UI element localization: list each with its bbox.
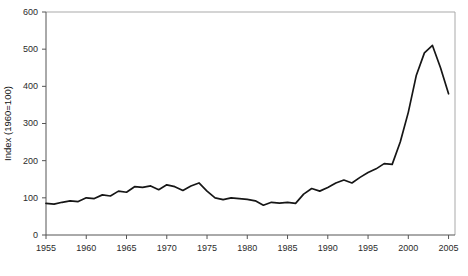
y-tick-label: 0: [33, 230, 38, 240]
x-tick-label: 1960: [76, 243, 96, 253]
x-axis-ticks: 1955196019651970197519801985199019952000…: [36, 235, 459, 253]
x-tick-label: 2000: [398, 243, 418, 253]
x-tick-label: 1970: [157, 243, 177, 253]
y-tick-label: 100: [23, 193, 38, 203]
x-tick-label: 1985: [278, 243, 298, 253]
data-series-group: [46, 45, 449, 205]
chart-container: 0100200300400500600 19551960196519701975…: [0, 0, 468, 276]
y-tick-label: 300: [23, 118, 38, 128]
x-tick-label: 1980: [237, 243, 257, 253]
y-axis-title: Index (1960=100): [2, 86, 13, 161]
y-tick-label: 600: [23, 7, 38, 17]
series-line: [46, 45, 449, 205]
x-tick-label: 1965: [116, 243, 136, 253]
y-axis-ticks: 0100200300400500600: [23, 7, 46, 240]
y-tick-label: 500: [23, 44, 38, 54]
y-tick-label: 400: [23, 81, 38, 91]
x-tick-label: 2005: [439, 243, 459, 253]
x-tick-label: 1975: [197, 243, 217, 253]
line-chart: 0100200300400500600 19551960196519701975…: [0, 0, 468, 276]
x-tick-label: 1955: [36, 243, 56, 253]
x-tick-label: 1995: [358, 243, 378, 253]
plot-axes-left-bottom: [46, 12, 455, 235]
plot-frame: [46, 12, 455, 235]
x-tick-label: 1990: [318, 243, 338, 253]
y-tick-label: 200: [23, 156, 38, 166]
plot-frame-top-right: [46, 12, 455, 235]
